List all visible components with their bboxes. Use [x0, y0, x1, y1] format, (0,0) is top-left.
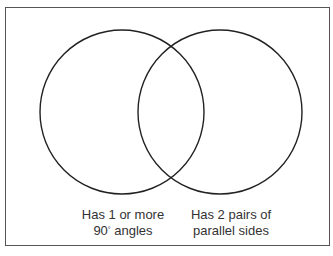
right-set-circle [138, 30, 302, 194]
right-label-line2: parallel sides [176, 223, 286, 239]
left-label-line2: 90° angles [68, 223, 178, 239]
left-set-label: Has 1 or more 90° angles [68, 207, 178, 239]
left-label-line1: Has 1 or more [68, 207, 178, 223]
left-set-circle [40, 30, 204, 194]
right-set-label: Has 2 pairs of parallel sides [176, 207, 286, 239]
right-label-line1: Has 2 pairs of [176, 207, 286, 223]
degree-symbol: ° [108, 226, 111, 233]
